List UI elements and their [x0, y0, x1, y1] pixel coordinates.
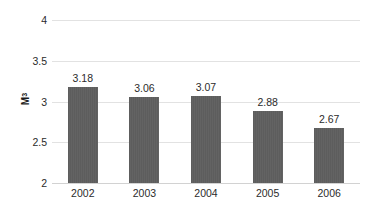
bar[interactable]	[129, 97, 159, 183]
bar-value-label: 2.88	[257, 97, 277, 108]
bar-value-label: 3.18	[73, 73, 93, 84]
y-axis-tick-label: 4	[0, 15, 52, 26]
y-axis-tick-labels: 22.533.54	[0, 0, 52, 220]
bar-value-label: 2.67	[319, 114, 339, 125]
y-axis-tick-label: 3.5	[0, 56, 52, 67]
bar-group: 2.67	[298, 20, 360, 183]
bar-value-label: 3.06	[134, 83, 154, 94]
y-axis-tick-label: 2	[0, 178, 52, 189]
bars-layer: 3.183.063.072.882.67	[52, 20, 360, 183]
gridline	[52, 183, 360, 184]
y-axis-tick-label: 2.5	[0, 137, 52, 148]
x-axis-tick-label: 2003	[133, 188, 156, 199]
x-axis-tick-label: 2005	[256, 188, 279, 199]
bar[interactable]	[253, 111, 283, 183]
bar-group: 2.88	[237, 20, 299, 183]
bar-group: 3.18	[52, 20, 114, 183]
bar-group: 3.06	[114, 20, 176, 183]
bar[interactable]	[191, 96, 221, 183]
bar-group: 3.07	[175, 20, 237, 183]
x-axis-tick-label: 2002	[71, 188, 94, 199]
x-axis-tick-labels: 20022003200420052006	[52, 188, 360, 210]
bar-chart: M3 22.533.54 3.183.063.072.882.67 200220…	[0, 0, 367, 220]
plot-area: 3.183.063.072.882.67	[52, 20, 360, 183]
x-axis-tick-label: 2006	[318, 188, 341, 199]
x-axis-tick-label: 2004	[194, 188, 217, 199]
y-axis-tick-label: 3	[0, 96, 52, 107]
bar-value-label: 3.07	[196, 82, 216, 93]
bar[interactable]	[68, 87, 98, 183]
bar[interactable]	[314, 128, 344, 183]
